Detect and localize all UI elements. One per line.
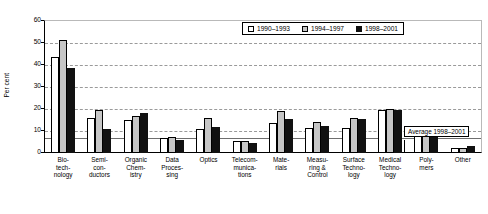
y-tick-label-60: 60	[34, 17, 41, 24]
bar-8-0	[342, 128, 350, 153]
bar-group-8	[336, 21, 372, 153]
bar-6-2	[285, 119, 293, 153]
bar-4-2	[212, 127, 220, 153]
x-axis-labels: Bio- tech- nologySemi- con- ductorsOrgan…	[45, 156, 481, 179]
bar-group-9	[372, 21, 408, 153]
bar-5-2	[249, 143, 257, 153]
bar-4-1	[204, 118, 212, 153]
bar-3-2	[176, 140, 184, 153]
bar-2-1	[132, 116, 140, 153]
bar-0-0	[51, 57, 59, 153]
legend-swatch-icon-1	[302, 26, 308, 32]
average-annotation-stem	[404, 140, 405, 153]
bar-group-0	[45, 21, 81, 153]
y-tick-label-10: 10	[34, 127, 41, 134]
legend-item-2: 1998–2001	[356, 25, 398, 32]
bar-5-1	[241, 141, 249, 153]
legend-label-0: 1990–1993	[257, 25, 290, 32]
x-tick-label-7: Measu- ring & Control	[299, 156, 335, 179]
x-tick-label-2: Organic Chem- istry	[118, 156, 154, 179]
legend-label-2: 1998–2001	[365, 25, 398, 32]
y-axis: Per cent 0102030405060	[0, 20, 44, 153]
bar-group-2	[118, 21, 154, 153]
bar-7-2	[321, 126, 329, 154]
bar-7-1	[313, 122, 321, 153]
x-tick-label-8: Surface Techno- logy	[336, 156, 372, 179]
bar-0-1	[59, 40, 67, 153]
legend-item-1: 1994–1997	[302, 25, 344, 32]
bar-chart: Per cent 0102030405060 Bio- tech- nology…	[0, 0, 488, 214]
bar-0-2	[67, 68, 75, 153]
bar-3-0	[160, 138, 168, 153]
bar-1-2	[103, 129, 111, 153]
bar-1-0	[87, 118, 95, 153]
y-tick-label-40: 40	[34, 61, 41, 68]
bar-group-1	[81, 21, 117, 153]
y-axis-title: Per cent	[4, 57, 11, 113]
x-tick-label-10: Poly- mers	[408, 156, 444, 179]
x-tick-label-0: Bio- tech- nology	[45, 156, 81, 179]
bar-7-0	[305, 128, 313, 153]
bar-3-1	[168, 137, 176, 154]
bar-8-2	[358, 119, 366, 153]
bar-8-1	[350, 118, 358, 153]
bar-4-0	[196, 129, 204, 153]
bar-1-1	[95, 110, 103, 153]
bar-group-3	[154, 21, 190, 153]
bar-5-0	[233, 141, 241, 153]
x-tick-label-11: Other	[445, 156, 481, 179]
bar-group-5	[227, 21, 263, 153]
x-tick-label-9: Medical Techno- logy	[372, 156, 408, 179]
bar-6-1	[277, 111, 285, 153]
bar-9-1	[386, 109, 394, 153]
bar-9-0	[378, 110, 386, 153]
bar-10-2	[430, 135, 438, 153]
bar-2-2	[140, 113, 148, 153]
bar-group-4	[190, 21, 226, 153]
bar-group-7	[299, 21, 335, 153]
bar-11-2	[467, 146, 475, 153]
bar-9-2	[394, 110, 402, 153]
x-tick-label-6: Mate- rials	[263, 156, 299, 179]
legend-swatch-icon-2	[356, 26, 362, 32]
x-tick-label-3: Data Proces- sing	[154, 156, 190, 179]
y-tick-label-50: 50	[34, 39, 41, 46]
bar-11-1	[459, 148, 467, 154]
bar-11-0	[451, 148, 459, 154]
legend-label-1: 1994–1997	[311, 25, 344, 32]
x-tick-label-1: Semi- con- ductors	[81, 156, 117, 179]
bar-group-6	[263, 21, 299, 153]
legend-swatch-icon-0	[248, 26, 254, 32]
average-annotation: Average 1998–2001	[404, 126, 469, 137]
legend: 1990–1993 1994–1997 1998–2001	[242, 22, 404, 35]
bar-10-0	[414, 134, 422, 153]
bar-2-0	[124, 120, 132, 153]
x-tick-label-4: Optics	[190, 156, 226, 179]
y-tick-label-20: 20	[34, 105, 41, 112]
legend-item-0: 1990–1993	[248, 25, 290, 32]
bar-6-0	[269, 123, 277, 153]
x-tick-label-5: Telecom- munica- tions	[227, 156, 263, 179]
y-tick-label-30: 30	[34, 83, 41, 90]
